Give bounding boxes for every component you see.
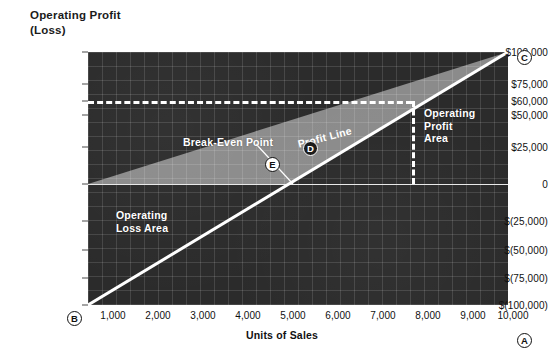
x-tick-label-3: 4,000 [235,310,261,321]
y-tick-label-5: 0 [462,179,548,190]
reference-line-8000-vertical [412,101,415,184]
y-tick-mark-7 [82,250,88,251]
y-axis-title-line1: Operating Profit [30,9,121,21]
x-tick-label-8: 9,000 [460,310,486,321]
y-tick-label-9: $(100,000) [462,300,548,311]
marker-b: B [67,311,82,326]
y-tick-label-4: $25,000 [462,142,548,153]
x-tick-label-0: 1,000 [100,310,126,321]
marker-a: A [517,333,532,348]
x-tick-label-4: 5,000 [280,310,306,321]
y-tick-mark-9 [82,305,88,306]
y-tick-label-0: $100,000 [462,47,548,58]
y-tick-label-6: $(25,000) [462,216,548,227]
x-tick-label-5: 6,000 [325,310,351,321]
y-tick-mark-2 [82,101,88,102]
x-tick-label-9: 10,000 [497,310,528,321]
y-axis-title-line2: (Loss) [30,23,121,38]
cost-volume-profit-chart: Operating Profit (Loss) Operating Loss A… [0,0,548,357]
y-axis-title: Operating Profit (Loss) [30,8,121,38]
y-tick-mark-6 [82,221,88,222]
operating-loss-area-label: Operating Loss Area [116,209,168,234]
x-tick-label-7: 8,000 [415,310,441,321]
x-axis-title: Units of Sales [0,329,548,341]
y-tick-mark-3 [82,115,88,116]
y-tick-label-8: $(75,000) [462,273,548,284]
marker-c: C [517,50,532,65]
y-tick-mark-5 [82,184,88,185]
marker-d: D [303,141,318,156]
y-tick-label-3: $50,000 [462,110,548,121]
break-even-point-label: Break-Even Point [183,136,273,149]
x-tick-label-1: 2,000 [145,310,171,321]
y-tick-label-2: $60,000 [462,96,548,107]
y-tick-label-7: $(50,000) [462,245,548,256]
x-axis-title-text: Units of Sales [246,329,318,341]
y-tick-mark-4 [82,147,88,148]
plot-area: Operating Loss Area Operating Profit Are… [88,52,508,305]
marker-e: E [265,157,280,172]
zero-line [88,184,508,185]
x-tick-label-2: 3,000 [190,310,216,321]
x-tick-label-6: 7,000 [370,310,396,321]
grid-lines [88,52,508,305]
y-tick-mark-8 [82,278,88,279]
y-tick-mark-0 [82,52,88,53]
reference-line-60000-horizontal [88,101,412,104]
y-tick-mark-1 [82,84,88,85]
y-tick-label-1: $75,000 [462,79,548,90]
